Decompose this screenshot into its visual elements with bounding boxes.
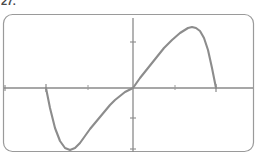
graph-plot [0, 0, 259, 164]
figure-container: 27. [0, 0, 259, 164]
